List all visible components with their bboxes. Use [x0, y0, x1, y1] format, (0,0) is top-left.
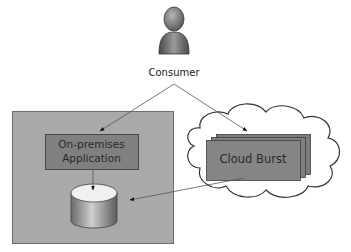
cloud-burst-label: Cloud Burst [206, 152, 300, 166]
consumer-label: Consumer [134, 67, 214, 78]
app-label-line2: Application [45, 151, 138, 165]
user-icon [159, 7, 189, 54]
on-premises-application-label: On-premises Application [45, 137, 138, 165]
database-icon [71, 184, 117, 228]
app-label-line1: On-premises [45, 137, 138, 151]
diagram-canvas [0, 0, 351, 252]
